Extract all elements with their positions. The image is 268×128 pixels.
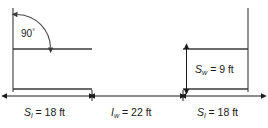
left-span-unit: ft <box>56 106 65 118</box>
left-span-value: 18 <box>45 106 57 118</box>
right-span-equals: = <box>206 106 218 118</box>
right-span-value: 18 <box>218 106 230 118</box>
gap-width-label: Iw = 22 ft <box>111 106 152 120</box>
gap-width-value: 22 <box>131 106 143 118</box>
degree-symbol: ° <box>32 28 35 35</box>
left-span-symbol: S <box>24 106 31 118</box>
diagram-canvas: 90° Sw = 9 ft Sl = 18 ft Iw = 22 ft Sl =… <box>0 0 268 128</box>
wall-height-label: Sw = 9 ft <box>195 63 234 77</box>
wall-height-unit: ft <box>225 63 234 75</box>
dimension-diagram: 90° Sw = 9 ft Sl = 18 ft Iw = 22 ft Sl =… <box>0 0 268 128</box>
wall-height-equals: = <box>207 63 219 75</box>
left-span-equals: = <box>33 106 45 118</box>
angle-value: 90 <box>21 28 33 39</box>
left-span-label: Sl = 18 ft <box>24 106 65 120</box>
right-span-symbol: S <box>197 106 204 118</box>
right-span-unit: ft <box>229 106 238 118</box>
angle-label: 90° <box>21 28 35 39</box>
gap-width-unit: ft <box>143 106 152 118</box>
gap-width-equals: = <box>119 106 131 118</box>
wall-height-symbol: S <box>195 63 202 75</box>
right-span-label: Sl = 18 ft <box>197 106 238 120</box>
